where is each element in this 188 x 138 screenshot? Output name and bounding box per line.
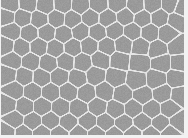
micrograph-frame <box>0 0 188 138</box>
cell-tessellation-image <box>1 0 184 135</box>
